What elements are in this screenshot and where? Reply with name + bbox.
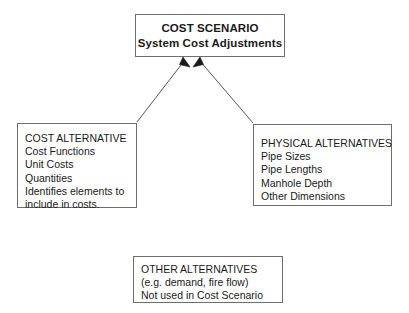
node-physical-alternatives: PHYSICAL ALTERNATIVES Pipe Sizes Pipe Le… xyxy=(253,124,392,206)
node-cost-alternative-item: include in costs. xyxy=(25,198,132,211)
node-cost-alternative-item: Quantities xyxy=(25,172,132,185)
node-physical-alternatives-item: Pipe Lengths xyxy=(261,163,387,176)
node-physical-alternatives-item: Other Dimensions xyxy=(261,190,387,203)
node-cost-alternative-heading: COST ALTERNATIVE xyxy=(25,132,132,145)
node-physical-alternatives-item: Pipe Sizes xyxy=(261,150,387,163)
node-cost-alternative: COST ALTERNATIVE Cost Functions Unit Cos… xyxy=(17,123,137,208)
node-other-alternatives-heading: OTHER ALTERNATIVES xyxy=(141,263,278,276)
arrowhead-icon xyxy=(193,57,204,67)
node-physical-alternatives-item: Manhole Depth xyxy=(261,177,387,190)
node-other-alternatives: OTHER ALTERNATIVES (e.g. demand, fire fl… xyxy=(133,256,283,303)
node-cost-alternative-item: Unit Costs xyxy=(25,158,132,171)
node-other-alternatives-item: Not used in Cost Scenario xyxy=(141,289,278,302)
node-cost-scenario: COST SCENARIO System Cost Adjustments xyxy=(135,14,285,57)
node-physical-alternatives-heading: PHYSICAL ALTERNATIVES xyxy=(261,137,387,150)
node-cost-scenario-text: COST SCENARIO System Cost Adjustments xyxy=(136,21,284,51)
connector-cost-alternative-to-cost-scenario xyxy=(137,57,190,122)
diagram-canvas: COST SCENARIO System Cost Adjustments CO… xyxy=(0,0,409,313)
node-cost-scenario-title: COST SCENARIO xyxy=(136,21,284,36)
connector-physical-alternatives-to-cost-scenario xyxy=(193,57,253,123)
node-physical-alternatives-text: PHYSICAL ALTERNATIVES Pipe Sizes Pipe Le… xyxy=(261,137,387,203)
node-cost-scenario-subtitle: System Cost Adjustments xyxy=(136,36,284,51)
node-other-alternatives-item: (e.g. demand, fire flow) xyxy=(141,276,278,289)
node-cost-alternative-text: COST ALTERNATIVE Cost Functions Unit Cos… xyxy=(25,132,132,211)
node-other-alternatives-text: OTHER ALTERNATIVES (e.g. demand, fire fl… xyxy=(141,263,278,303)
node-cost-alternative-item: Identifies elements to xyxy=(25,185,132,198)
node-cost-alternative-item: Cost Functions xyxy=(25,145,132,158)
